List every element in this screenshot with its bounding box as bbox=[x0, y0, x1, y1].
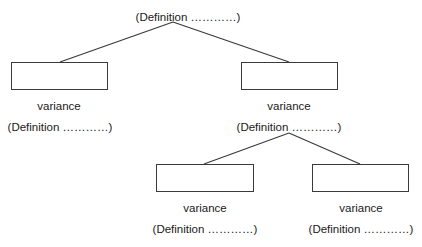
edge-right-child-left bbox=[204, 133, 289, 164]
node-right-name: variance bbox=[234, 99, 344, 113]
node-box-left bbox=[11, 62, 108, 90]
edge-root-left bbox=[60, 22, 173, 62]
node-left-definition: (Definition …………) bbox=[0, 120, 130, 134]
edge-root-right bbox=[173, 22, 289, 62]
node-box-child-left bbox=[156, 164, 254, 192]
root-definition: (Definition …………) bbox=[118, 10, 258, 24]
node-child-right-definition: (Definition …………) bbox=[291, 222, 422, 236]
node-box-child-right bbox=[312, 164, 409, 192]
node-child-right-name: variance bbox=[306, 201, 416, 215]
node-left-name: variance bbox=[4, 99, 114, 113]
node-box-right bbox=[241, 62, 338, 90]
node-right-definition: (Definition …………) bbox=[219, 120, 359, 134]
edge-right-child-right bbox=[289, 133, 360, 164]
node-child-left-definition: (Definition …………) bbox=[135, 222, 275, 236]
node-child-left-name: variance bbox=[150, 201, 260, 215]
